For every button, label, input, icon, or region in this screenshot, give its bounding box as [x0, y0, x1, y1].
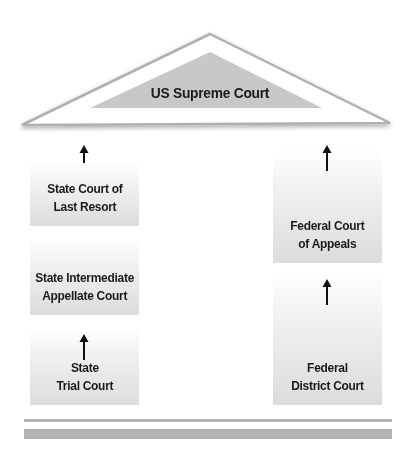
arrow-up-icon [78, 334, 90, 360]
state-intermediate-appellate-court-box: State Intermediate Appellate Court [30, 237, 139, 315]
federal-district-court-label: Federal District Court [291, 359, 364, 395]
state-trial-court-label: State Trial Court [56, 359, 113, 395]
arrow-up-icon [321, 145, 333, 171]
foundation-bar [24, 429, 392, 439]
state-court-of-last-resort-box: State Court of Last Resort [30, 163, 139, 226]
federal-court-of-appeals-label: Federal Court of Appeals [290, 217, 364, 253]
state-court-of-last-resort-label: State Court of Last Resort [47, 180, 122, 216]
state-intermediate-appellate-court-label: State Intermediate Appellate Court [35, 269, 134, 305]
supreme-court-label: US Supreme Court [100, 84, 321, 101]
arrow-up-icon [321, 279, 333, 305]
supreme-court-pediment: US Supreme Court [0, 0, 413, 140]
pediment-triangle-graphic [0, 0, 413, 140]
foundation-line [24, 419, 392, 422]
